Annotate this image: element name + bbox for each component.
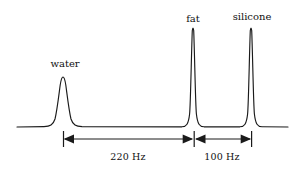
annotation-arrow-220hz (64, 135, 194, 144)
arrowhead-right-220hz (183, 135, 194, 144)
peak-label-fat: fat (186, 14, 200, 24)
arrowhead-left-100hz (195, 135, 206, 144)
span-label-100hz: 100 Hz (204, 152, 240, 162)
spectrum-trace (17, 28, 288, 127)
arrowhead-right-100hz (241, 135, 252, 144)
peak-label-water: water (50, 59, 79, 69)
peak-label-silicone: silicone (233, 12, 272, 22)
spectrum-plot (0, 0, 297, 173)
span-label-220hz: 220 Hz (110, 152, 146, 162)
annotation-arrow-100hz (195, 135, 251, 144)
arrowhead-left-220hz (64, 135, 75, 144)
nmr-spectrum-figure: water fat silicone 220 Hz 100 Hz (0, 0, 297, 173)
